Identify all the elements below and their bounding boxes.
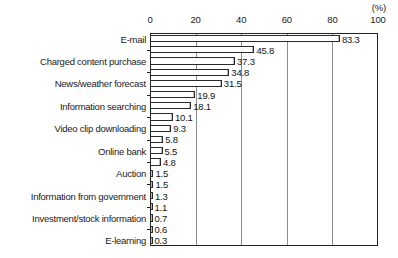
bar (150, 125, 171, 132)
y-axis-tick (147, 140, 150, 141)
bar-value-label: 34.8 (231, 67, 249, 78)
bar-row: 83.3 (150, 35, 378, 42)
bar-value-label: 0.3 (155, 235, 168, 246)
x-tick-label-20: 20 (191, 14, 201, 25)
bar-value-label: 1.5 (155, 168, 168, 179)
y-axis-tick (147, 50, 150, 51)
category-axis-labels: E-mailCharged content purchaseNews/weath… (0, 33, 146, 246)
bar-value-label: 4.8 (163, 156, 176, 167)
category-label-auction: Auction (116, 168, 146, 179)
bar (150, 35, 340, 42)
category-label-charged-content-purchase: Charged content purchase (40, 56, 146, 67)
bar (150, 203, 153, 210)
category-label-investment-stock-information: Investment/stock information (32, 212, 146, 223)
bar-value-label: 31.5 (224, 78, 242, 89)
x-tick-label-100: 100 (370, 14, 385, 25)
bar-value-label: 18.1 (193, 100, 211, 111)
y-axis-tick (147, 229, 150, 230)
y-axis-tick (147, 207, 150, 208)
bar-value-label: 83.3 (342, 33, 360, 44)
bar (150, 91, 195, 98)
bar-value-label: 1.5 (155, 179, 168, 190)
bar (150, 181, 153, 188)
bar (150, 226, 153, 233)
bar-row: 1.5 (150, 170, 378, 177)
y-axis-tick (147, 184, 150, 185)
y-axis-tick (147, 95, 150, 96)
bar-row: 34.8 (150, 69, 378, 76)
bar-value-label: 0.6 (155, 224, 168, 235)
bar (150, 237, 153, 244)
x-tick-label-40: 40 (236, 14, 246, 25)
bar (150, 46, 254, 53)
bar (150, 170, 153, 177)
bar-row: 1.3 (150, 192, 378, 199)
bar-value-label: 45.8 (256, 44, 274, 55)
x-axis-tick-labels: 020406080100 (0, 0, 398, 33)
bar-value-label: 5.5 (165, 145, 178, 156)
bar-row: 1.1 (150, 203, 378, 210)
bar (150, 136, 163, 143)
bar (150, 80, 222, 87)
bar-row: 4.8 (150, 158, 378, 165)
bar-row: 19.9 (150, 91, 378, 98)
category-label-video-clip-downloading: Video clip downloading (54, 123, 146, 134)
bar (150, 113, 173, 120)
bar-value-label: 0.7 (155, 212, 168, 223)
bar-value-label: 9.3 (173, 123, 186, 134)
bar-row: 0.7 (150, 214, 378, 221)
bar-value-label: 1.1 (155, 201, 168, 212)
bar-row: 10.1 (150, 113, 378, 120)
bar (150, 214, 153, 221)
bar-value-label: 19.9 (197, 89, 215, 100)
bar (150, 147, 163, 154)
category-label-information-from-government: Information from government (31, 190, 146, 201)
y-axis-tick (147, 117, 150, 118)
bar-value-label: 1.3 (155, 190, 168, 201)
bar-row: 31.5 (150, 80, 378, 87)
bar-chart: (%) 020406080100 83.345.837.334.831.519.… (0, 0, 398, 258)
bar-row: 0.3 (150, 237, 378, 244)
bars-layer: 83.345.837.334.831.519.918.110.19.35.85.… (150, 33, 378, 246)
bar (150, 102, 191, 109)
bar-row: 45.8 (150, 46, 378, 53)
bar-value-label: 10.1 (175, 112, 193, 123)
bar-row: 18.1 (150, 102, 378, 109)
bar-row: 1.5 (150, 181, 378, 188)
category-label-e-mail: E-mail (121, 33, 146, 44)
y-axis-tick (147, 72, 150, 73)
bar (150, 69, 229, 76)
bar (150, 192, 153, 199)
bar (150, 158, 161, 165)
x-tick-label-80: 80 (327, 14, 337, 25)
bar-row: 0.6 (150, 226, 378, 233)
bar (150, 57, 235, 64)
x-tick-label-60: 60 (282, 14, 292, 25)
bar-row: 37.3 (150, 57, 378, 64)
category-label-news-weather-forecast: News/weather forecast (55, 78, 146, 89)
bar-row: 5.8 (150, 136, 378, 143)
category-label-e-learning: E-learning (105, 235, 146, 246)
category-label-information-searching: Information searching (60, 100, 146, 111)
bar-row: 9.3 (150, 125, 378, 132)
bar-row: 5.5 (150, 147, 378, 154)
category-label-online-bank: Online bank (98, 145, 146, 156)
bar-value-label: 5.8 (165, 134, 178, 145)
x-tick-label-0: 0 (147, 14, 152, 25)
bar-value-label: 37.3 (237, 56, 255, 67)
y-axis-tick (147, 162, 150, 163)
